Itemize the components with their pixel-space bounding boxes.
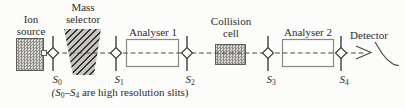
analyser-1-label: Analyser 1: [129, 27, 177, 39]
collision-cell-label-line2: cell: [211, 28, 251, 40]
slit-diamond-s1: [111, 48, 122, 59]
caption-join: –S: [64, 86, 75, 98]
detector-label: Detector: [350, 30, 388, 42]
detector-plate-curve: [375, 42, 399, 66]
mass-spectrometer-diagram: Ion source Mass selector Analyser 1 Coll…: [0, 0, 406, 108]
ion-source-label-line2: source: [17, 26, 46, 38]
slit-label-s0: S0: [52, 73, 61, 85]
analyser-1-box: [127, 40, 179, 67]
slit-label-s3: S3: [266, 73, 275, 85]
analyser-2-label: Analyser 2: [284, 27, 332, 39]
slit-label-s2: S2: [185, 73, 194, 85]
mass-selector-label-line1: Mass: [66, 2, 100, 14]
slit-diamond-s0: [48, 48, 59, 59]
collision-cell-box: [215, 44, 246, 65]
collision-cell-label: Collision cell: [211, 16, 251, 39]
ion-source-label: Ion source: [17, 14, 46, 37]
ion-source-box: [16, 38, 44, 71]
slit-diamond-s4: [336, 48, 347, 59]
slit-s3-sub: 3: [272, 78, 276, 87]
detector-arrowhead-icon: [356, 46, 371, 59]
ion-source-aperture: [41, 50, 47, 56]
ion-source-label-line1: Ion: [17, 14, 46, 26]
figure-caption: (S0–S4 are high resolution slits): [51, 86, 188, 98]
collision-cell-label-line1: Collision: [211, 16, 251, 28]
caption-lead: (S: [51, 86, 60, 98]
analyser-2-box: [283, 40, 334, 67]
detector-symbol: [356, 42, 399, 66]
slit-label-s4: S4: [339, 73, 348, 85]
slit-diamond-s2: [182, 48, 193, 59]
slit-diamond-s3: [263, 48, 274, 59]
slit-s2-sub: 2: [191, 78, 195, 87]
slit-s4-sub: 4: [345, 78, 349, 87]
mass-selector-shape: [63, 29, 102, 75]
mass-selector-label-line2: selector: [66, 14, 100, 26]
slit-label-s1: S1: [114, 73, 123, 85]
caption-tail: are high resolution slits): [79, 86, 188, 98]
mass-selector-label: Mass selector: [66, 2, 100, 25]
